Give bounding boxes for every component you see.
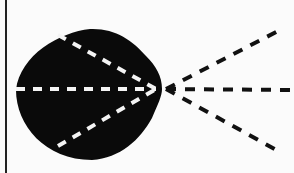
diagram-canvas [0,0,294,173]
